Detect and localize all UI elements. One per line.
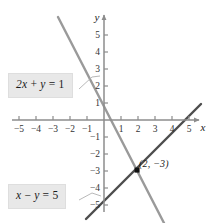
equation-label-2x-plus-y-equals-1: 2x+y=1 [8,73,73,98]
axes-group [12,15,199,212]
y-tick-label: −2 [90,149,100,159]
x-axis-label: x [200,121,206,133]
x-tick-label: −3 [48,124,58,134]
y-tick-label: 1 [95,98,100,108]
y-tick-label: −3 [90,166,100,176]
equation-1-relation: = [46,78,59,90]
y-tick-label: 2 [95,81,100,91]
equation-1-operator: + [27,78,40,90]
equation-2-relation: = [40,189,53,201]
intersection-point-label: (2, −3) [139,158,169,169]
x-tick-labels: −5 −4 −3 −2 −1 1 2 3 4 5 [14,124,192,134]
x-tick-label: 5 [187,124,192,134]
equation-2-lhs-term2: y [34,189,39,201]
x-tick-label: 1 [119,124,124,134]
equation-2-operator: − [21,189,34,201]
y-tick-label: 5 [95,30,100,40]
y-tick-label: −4 [90,183,100,193]
y-axis-label: y [94,11,100,23]
equation-1-rhs: 1 [58,78,64,90]
x-tick-label: −5 [14,124,24,134]
x-tick-label: 2 [136,124,141,134]
equation-1-lhs-term1: 2x [16,78,27,90]
y-tick-label: −5 [90,200,100,210]
coordinate-plane-figure: −5 −4 −3 −2 −1 1 2 3 4 5 5 4 3 2 1 −1 −2… [0,0,216,223]
y-tick-label: −1 [90,132,100,142]
y-tick-label: 4 [95,47,100,57]
x-tick-label: 4 [170,124,175,134]
leader-line-equation-2 [79,193,101,200]
y-tick-label: 3 [95,64,100,74]
x-tick-label: −4 [31,124,41,134]
equation-1-lhs-term2: y [40,78,45,90]
equation-label-x-minus-y-equals-5: x−y=5 [8,184,66,209]
x-tick-label: −2 [65,124,75,134]
x-tick-label: 3 [153,124,158,134]
equation-2-rhs: 5 [52,189,58,201]
